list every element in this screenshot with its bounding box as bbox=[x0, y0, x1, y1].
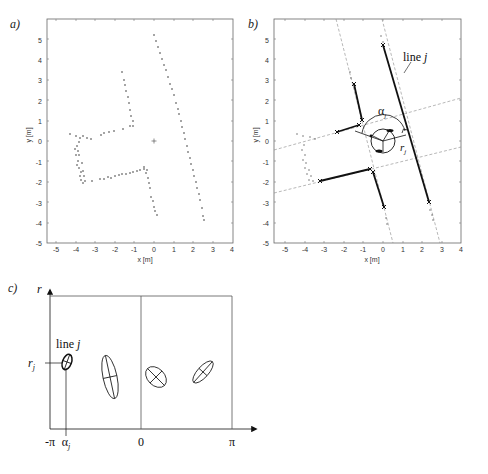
svg-text:3: 3 bbox=[265, 77, 269, 84]
panel-a-yticks: 5 4 3 2 1 0 -1 -2 -3 -4 -5 bbox=[36, 37, 42, 247]
panel-b-label: b) bbox=[248, 17, 258, 31]
panel-a-scan-points bbox=[69, 34, 205, 221]
svg-text:-1: -1 bbox=[131, 246, 137, 253]
svg-text:-3: -3 bbox=[263, 200, 269, 207]
svg-text:-4: -4 bbox=[36, 220, 42, 227]
figure: a) 5 4 3 2 1 0 -1 -2 -3 -4 -5 bbox=[0, 0, 488, 474]
svg-text:1: 1 bbox=[265, 118, 269, 125]
svg-text:-4: -4 bbox=[263, 220, 269, 227]
panel-a-ytick-marks bbox=[47, 39, 233, 223]
panel-a-ylabel: y [m] bbox=[25, 127, 33, 142]
svg-text:-3: -3 bbox=[92, 246, 98, 253]
svg-text:0: 0 bbox=[265, 138, 269, 145]
panel-b-xticks: -5 -4 -3 -2 -1 0 1 2 3 4 bbox=[282, 246, 463, 253]
panel-c-xtick-neg-pi: -π bbox=[45, 435, 55, 449]
svg-text:0: 0 bbox=[38, 138, 42, 145]
svg-text:5: 5 bbox=[38, 37, 42, 44]
svg-text:2: 2 bbox=[265, 98, 269, 105]
svg-text:4: 4 bbox=[265, 57, 269, 64]
panel-c-label: c) bbox=[8, 281, 17, 295]
svg-text:-5: -5 bbox=[282, 246, 288, 253]
svg-text:-4: -4 bbox=[73, 246, 79, 253]
panel-c-annotation-line-j: line j bbox=[56, 337, 81, 351]
panel-b-segments bbox=[320, 45, 429, 207]
svg-text:1: 1 bbox=[172, 246, 176, 253]
segment-4 bbox=[320, 169, 370, 181]
svg-text:3: 3 bbox=[38, 77, 42, 84]
panel-a-axes-box bbox=[47, 19, 233, 243]
segment-5 bbox=[373, 172, 384, 207]
svg-text:-3: -3 bbox=[321, 246, 327, 253]
panel-c-xtick-zero: 0 bbox=[138, 435, 144, 449]
svg-text:2: 2 bbox=[191, 246, 195, 253]
svg-text:-1: -1 bbox=[360, 246, 366, 253]
segment-2 bbox=[354, 84, 362, 120]
panel-c-yaxis-label: r bbox=[37, 282, 42, 296]
panel-c-xtick-pi: π bbox=[229, 435, 235, 449]
svg-text:2: 2 bbox=[38, 98, 42, 105]
svg-text:-1: -1 bbox=[263, 159, 269, 166]
svg-text:-2: -2 bbox=[36, 179, 42, 186]
svg-text:-2: -2 bbox=[263, 179, 269, 186]
annotation-r-j: rj bbox=[400, 141, 406, 156]
panel-a-xticks: -5 -4 -3 -2 -1 0 1 2 3 4 bbox=[53, 246, 234, 253]
panel-b-axes-box bbox=[274, 19, 461, 243]
panel-c-xtick-alpha-j: αj bbox=[62, 435, 71, 451]
panel-c: c) r bbox=[8, 281, 256, 451]
svg-text:-4: -4 bbox=[302, 246, 308, 253]
svg-text:4: 4 bbox=[230, 246, 234, 253]
panel-c-ytick-rj: rj bbox=[28, 356, 36, 372]
annotation-alpha-j: αj bbox=[378, 104, 386, 120]
panel-b-xlabel: x [m] bbox=[364, 256, 379, 264]
panel-a-xtick-marks bbox=[56, 19, 213, 243]
segment-line-j bbox=[383, 45, 429, 202]
svg-text:4: 4 bbox=[38, 57, 42, 64]
ellipse-3 bbox=[142, 363, 171, 392]
svg-text:-2: -2 bbox=[112, 246, 118, 253]
svg-text:2: 2 bbox=[420, 246, 424, 253]
panel-b: b) 5 4 3 2 1 0 -1 -2 -3 -4 -5 bbox=[248, 17, 463, 264]
svg-text:1: 1 bbox=[38, 118, 42, 125]
svg-text:5: 5 bbox=[265, 37, 269, 44]
panel-a-label: a) bbox=[10, 17, 20, 31]
svg-text:0: 0 bbox=[381, 246, 385, 253]
svg-text:0: 0 bbox=[152, 246, 156, 253]
panel-b-endpoint-markers bbox=[318, 43, 431, 209]
svg-text:4: 4 bbox=[459, 246, 463, 253]
panel-b-dashed-lines bbox=[274, 19, 461, 243]
svg-text:3: 3 bbox=[440, 246, 444, 253]
svg-text:-5: -5 bbox=[263, 240, 269, 247]
svg-text:-5: -5 bbox=[53, 246, 59, 253]
panel-a-robot-marker bbox=[152, 139, 157, 144]
panel-b-ytick-marks bbox=[274, 39, 461, 223]
svg-text:-5: -5 bbox=[36, 240, 42, 247]
svg-text:1: 1 bbox=[401, 246, 405, 253]
svg-text:-2: -2 bbox=[341, 246, 347, 253]
svg-text:-3: -3 bbox=[36, 200, 42, 207]
panel-a: a) 5 4 3 2 1 0 -1 -2 -3 -4 -5 bbox=[10, 17, 234, 264]
ellipse-4 bbox=[190, 358, 217, 386]
svg-text:3: 3 bbox=[211, 246, 215, 253]
ellipse-2 bbox=[99, 354, 122, 400]
ellipse-line-j bbox=[60, 353, 74, 371]
panel-a-xlabel: x [m] bbox=[137, 256, 152, 264]
svg-text:-1: -1 bbox=[36, 159, 42, 166]
panel-b-yticks: 5 4 3 2 1 0 -1 -2 -3 -4 -5 bbox=[263, 37, 269, 247]
panel-b-ylabel: y [m] bbox=[252, 127, 260, 142]
annotation-line-j: line j bbox=[403, 50, 428, 64]
panel-c-ellipses bbox=[60, 353, 216, 400]
